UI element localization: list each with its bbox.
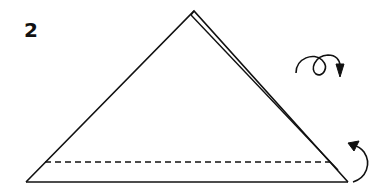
diagram-drawing <box>0 0 380 194</box>
turn-over-icon <box>296 55 344 77</box>
fold-up-arrow <box>348 141 368 182</box>
origami-diagram: 2 <box>0 0 380 194</box>
folded-triangle <box>26 11 348 182</box>
